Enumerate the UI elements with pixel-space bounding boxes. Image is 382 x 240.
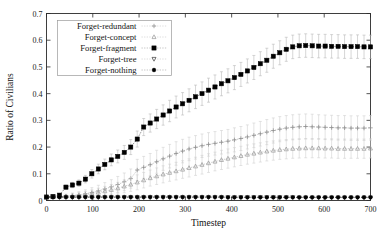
legend-label: Forget-fragment	[80, 43, 137, 53]
marker-circle	[304, 195, 308, 199]
marker-square	[129, 145, 133, 149]
chart-canvas: 010020030040050060070000.10.20.30.40.50.…	[0, 0, 382, 240]
marker-square	[304, 43, 308, 47]
marker-square	[297, 44, 301, 48]
marker-square	[193, 95, 197, 99]
legend-label: Forget-concept	[85, 32, 137, 42]
marker-square	[135, 137, 139, 141]
marker-square	[161, 113, 165, 117]
marker-circle	[129, 195, 133, 199]
marker-square	[336, 44, 340, 48]
marker-circle	[245, 195, 249, 199]
marker-square	[96, 167, 100, 171]
y-tick-label: 0.4	[33, 90, 43, 99]
marker-circle	[323, 195, 327, 199]
marker-circle	[90, 195, 94, 199]
marker-circle	[161, 195, 165, 199]
marker-circle	[168, 195, 172, 199]
marker-square	[310, 44, 314, 48]
y-axis-title: Ratio of Civilians	[5, 73, 15, 141]
marker-circle	[310, 195, 314, 199]
marker-circle	[174, 195, 178, 199]
marker-square	[278, 51, 282, 55]
marker-square	[70, 183, 74, 187]
marker-square	[152, 46, 156, 50]
marker-circle	[284, 195, 288, 199]
marker-circle	[135, 195, 139, 199]
marker-square	[226, 79, 230, 83]
marker-square	[219, 82, 223, 86]
marker-square	[323, 44, 327, 48]
y-tick-label: 0	[39, 197, 43, 206]
marker-square	[77, 181, 81, 185]
marker-circle	[213, 195, 217, 199]
marker-square	[200, 92, 204, 96]
marker-circle	[200, 195, 204, 199]
marker-circle	[83, 195, 87, 199]
marker-circle	[142, 195, 146, 199]
marker-square	[342, 45, 346, 49]
marker-square	[271, 54, 275, 58]
legend: Forget-redundantForget-conceptForget-fra…	[58, 21, 172, 76]
marker-circle	[45, 195, 49, 199]
legend-label: Forget-nothing	[85, 65, 137, 75]
marker-circle	[336, 195, 340, 199]
marker-square	[122, 150, 126, 154]
marker-square	[155, 117, 159, 121]
marker-square	[206, 88, 210, 92]
marker-circle	[356, 195, 360, 199]
marker-circle	[258, 195, 262, 199]
marker-circle	[58, 195, 62, 199]
y-tick-label: 0.2	[33, 143, 43, 152]
marker-square	[168, 109, 172, 113]
marker-square	[239, 72, 243, 76]
marker-square	[232, 76, 236, 80]
marker-circle	[349, 195, 353, 199]
y-tick-label: 0.7	[33, 10, 43, 19]
marker-circle	[187, 195, 191, 199]
marker-circle	[122, 195, 126, 199]
marker-square	[291, 45, 295, 49]
marker-square	[103, 162, 107, 166]
marker-circle	[148, 195, 152, 199]
marker-circle	[369, 195, 373, 199]
marker-circle	[330, 195, 334, 199]
marker-circle	[252, 195, 256, 199]
x-tick-label: 500	[272, 205, 284, 214]
marker-square	[180, 102, 184, 106]
marker-circle	[291, 195, 295, 199]
y-tick-label: 0.6	[33, 36, 43, 45]
marker-square	[258, 62, 262, 66]
marker-circle	[96, 195, 100, 199]
marker-circle	[265, 195, 269, 199]
marker-circle	[343, 195, 347, 199]
marker-circle	[297, 195, 301, 199]
marker-circle	[226, 195, 230, 199]
marker-square	[116, 154, 120, 158]
marker-square	[213, 85, 217, 89]
marker-circle	[155, 195, 159, 199]
marker-circle	[317, 195, 321, 199]
marker-circle	[77, 195, 81, 199]
marker-square	[245, 69, 249, 73]
marker-square	[64, 185, 68, 189]
marker-square	[265, 58, 269, 62]
marker-square	[368, 45, 372, 49]
marker-circle	[103, 195, 107, 199]
x-tick-label: 100	[87, 205, 99, 214]
marker-square	[349, 45, 353, 49]
marker-circle	[278, 195, 282, 199]
marker-square	[174, 105, 178, 109]
y-tick-label: 0.3	[33, 116, 43, 125]
marker-circle	[220, 195, 224, 199]
y-tick-label: 0.1	[33, 170, 43, 179]
x-tick-label: 400	[226, 205, 238, 214]
marker-circle	[207, 195, 211, 199]
marker-circle	[194, 195, 198, 199]
marker-circle	[51, 195, 55, 199]
marker-circle	[109, 195, 113, 199]
x-tick-label: 300	[179, 205, 191, 214]
x-tick-label: 600	[318, 205, 330, 214]
marker-square	[330, 44, 334, 48]
marker-square	[83, 177, 87, 181]
